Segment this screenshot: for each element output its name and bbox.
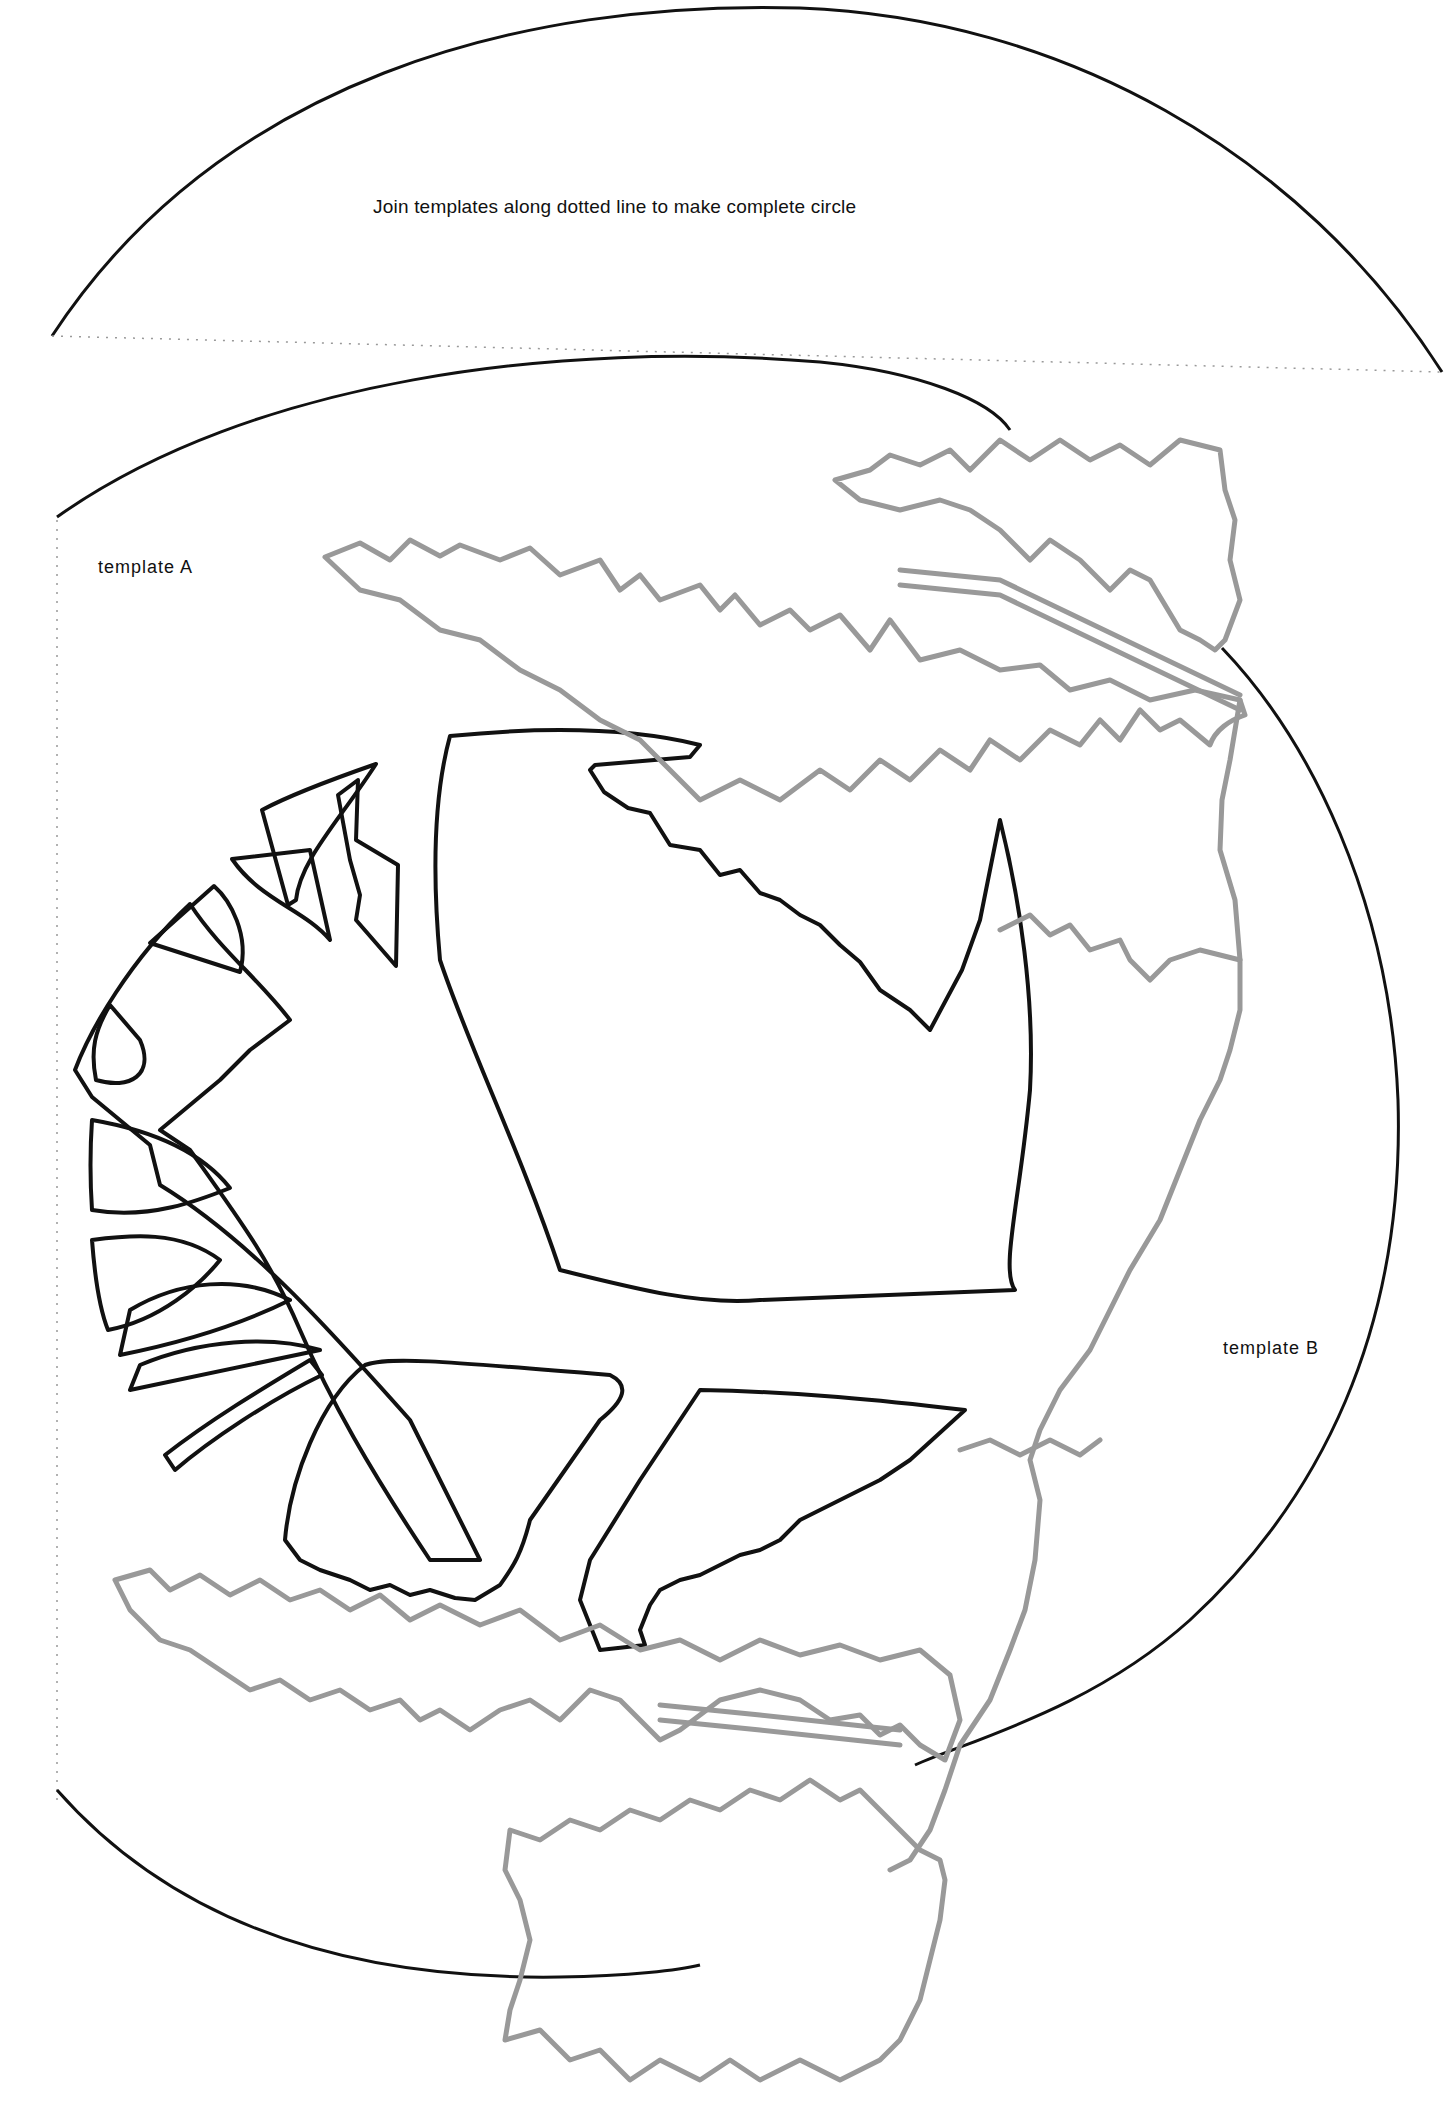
template-b-label: template B	[1223, 1338, 1319, 1359]
template-drawing	[0, 0, 1455, 2102]
top-arc	[52, 7, 1442, 372]
main-circle-bottom	[57, 1790, 700, 1977]
main-circle-right	[915, 648, 1398, 1765]
tree-cutout	[75, 730, 1031, 1650]
pine-trees	[115, 440, 1245, 2080]
template-a-label: template A	[98, 557, 193, 578]
join-instruction: Join templates along dotted line to make…	[373, 196, 856, 218]
dotted-join-line	[52, 336, 1442, 372]
main-circle-outline	[57, 356, 1010, 517]
